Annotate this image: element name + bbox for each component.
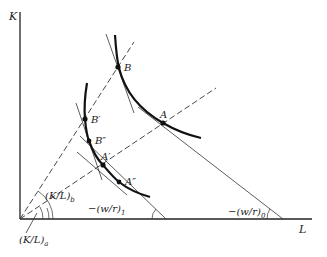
label-slope-1-main: −(w/r) [88, 203, 121, 214]
label-kl-a-main: (K/L) [19, 234, 44, 245]
point-b [115, 64, 120, 69]
point-a [160, 120, 165, 125]
point-b-double-prime [87, 139, 92, 144]
label-slope-0-main: −(w/r) [228, 206, 261, 217]
isoquant-diagram: K L B A B′ B″ A′ A″ (K/L)b (K/L)a −(w/r)… [0, 0, 327, 257]
label-slope-0: −(w/r)0 [228, 206, 266, 220]
k-axis-label: K [8, 10, 18, 23]
leader-kl-a [26, 213, 37, 233]
angle-arc-a-outer [47, 208, 49, 219]
label-b-prime: B′ [90, 114, 101, 125]
label-kl-b: (K/L)b [45, 190, 75, 204]
angle-arc-isocost-0 [267, 209, 270, 219]
l-axis-label: L [298, 223, 306, 236]
point-a-double-prime [117, 180, 122, 185]
label-a-prime: A′ [100, 151, 111, 162]
angle-arc-isocost-1 [152, 209, 156, 219]
label-a: A [159, 109, 167, 120]
angle-arc-a-inner [40, 207, 43, 219]
label-slope-1-sub: 1 [121, 209, 125, 217]
label-slope-1: −(w/r)1 [88, 203, 125, 217]
label-kl-a-sub: a [44, 240, 48, 248]
label-a-double-prime: A″ [124, 176, 136, 187]
label-b: B [123, 62, 131, 73]
point-b-prime [82, 116, 87, 121]
label-slope-0-sub: 0 [261, 212, 266, 220]
label-kl-b-main: (K/L) [45, 190, 70, 201]
label-kl-a: (K/L)a [19, 234, 48, 248]
label-b-double-prime: B″ [94, 135, 106, 146]
isocost-line-0 [138, 107, 283, 219]
label-kl-b-sub: b [70, 196, 75, 204]
point-a-prime [100, 162, 105, 167]
